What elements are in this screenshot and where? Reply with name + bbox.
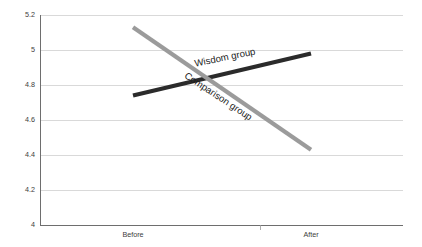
x-tick-label-after: After <box>303 230 319 239</box>
y-tick-label: 5 <box>31 45 35 54</box>
y-tick-label: 5.2 <box>25 10 35 19</box>
y-tick-label: 4.6 <box>25 115 35 124</box>
y-tick-label: 4.2 <box>25 185 35 194</box>
y-tick-label: 4.4 <box>25 150 35 159</box>
line-chart: 44.24.44.64.855.2 BeforeAfter Wisdom gro… <box>0 0 422 247</box>
x-tick-label-before: Before <box>122 230 143 239</box>
chart-background <box>0 0 422 247</box>
y-tick-label: 4.8 <box>25 80 35 89</box>
chart-canvas: 44.24.44.64.855.2 BeforeAfter Wisdom gro… <box>0 0 422 247</box>
y-tick-label: 4 <box>31 220 35 229</box>
